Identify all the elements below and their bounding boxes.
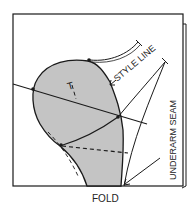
notch-dot — [59, 143, 63, 147]
notch-dot — [116, 115, 120, 119]
underarm-seam-label: UNDERARM SEAM — [168, 100, 178, 180]
fold-label: FOLD — [92, 193, 119, 204]
notch-dot — [31, 87, 35, 91]
notch-dot — [87, 58, 91, 62]
pattern-diagram: T STYLE LINE UNDERARM SEAM FOLD — [0, 0, 196, 216]
